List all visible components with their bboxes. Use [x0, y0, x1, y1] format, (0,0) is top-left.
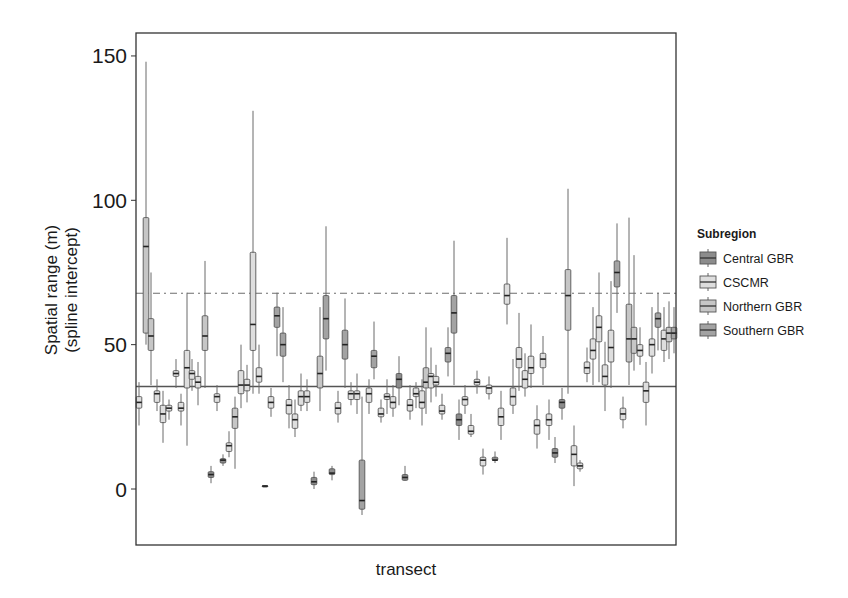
iqr-box	[286, 400, 292, 414]
legend-label: CSCMR	[723, 276, 769, 290]
iqr-box	[534, 420, 540, 434]
iqr-box	[189, 371, 195, 380]
iqr-box	[366, 388, 372, 402]
boxplot-chart: 050100150 transect Spatial range (m) (sp…	[0, 0, 848, 598]
iqr-box	[184, 350, 190, 388]
iqr-box	[649, 339, 655, 356]
iqr-box	[256, 368, 262, 382]
iqr-box	[468, 425, 474, 434]
iqr-box	[317, 356, 323, 388]
iqr-box	[148, 319, 154, 351]
iqr-box	[413, 388, 419, 397]
iqr-box	[202, 316, 208, 351]
iqr-box	[274, 307, 280, 327]
x-axis-title: transect	[376, 560, 437, 579]
iqr-box	[348, 391, 354, 400]
legend-item-southern: Southern GBR	[700, 321, 804, 339]
iqr-box	[516, 348, 522, 368]
legend-key-box-icon	[700, 321, 716, 339]
iqr-box	[143, 218, 149, 333]
iqr-box	[445, 348, 451, 362]
legend-item-central: Central GBR	[700, 249, 794, 267]
iqr-box	[608, 330, 614, 362]
y-tick-label: 0	[115, 478, 127, 501]
iqr-box	[292, 414, 298, 428]
iqr-box	[439, 405, 445, 414]
legend-title: Subregion	[697, 227, 756, 241]
plot-area	[136, 33, 677, 545]
iqr-box	[643, 382, 649, 402]
iqr-box	[559, 400, 565, 409]
iqr-box	[250, 252, 256, 350]
iqr-box	[238, 371, 244, 394]
iqr-box	[154, 391, 160, 403]
legend-key-box-icon	[700, 297, 716, 315]
iqr-box	[602, 365, 608, 385]
iqr-box	[298, 391, 304, 405]
iqr-box	[371, 350, 377, 367]
transect-box	[262, 485, 268, 487]
legend-item-northern: Northern GBR	[700, 297, 802, 315]
iqr-box	[590, 339, 596, 359]
iqr-box	[480, 457, 486, 466]
legend-label: Northern GBR	[723, 300, 802, 314]
iqr-box	[596, 316, 602, 342]
legend-label: Central GBR	[723, 252, 794, 266]
y-axis-title-line-2: (spline intercept)	[62, 227, 81, 353]
iqr-box	[226, 443, 232, 452]
y-tick-label: 50	[104, 333, 127, 356]
y-axis-title-line-1: Spatial range (m)	[42, 225, 61, 355]
iqr-box	[528, 356, 534, 373]
iqr-box	[232, 408, 238, 428]
legend-key-box-icon	[700, 249, 716, 267]
iqr-box	[433, 376, 439, 385]
iqr-box	[486, 385, 492, 394]
iqr-box	[419, 391, 425, 408]
y-tick-label: 150	[92, 44, 127, 67]
iqr-box	[571, 446, 577, 466]
iqr-box	[214, 394, 220, 403]
iqr-box	[631, 327, 637, 353]
legend-item-cscmr: CSCMR	[700, 273, 769, 291]
iqr-box	[178, 402, 184, 411]
iqr-box	[451, 296, 457, 334]
legend-label: Southern GBR	[723, 324, 804, 338]
plot-background	[136, 33, 676, 545]
iqr-box	[323, 296, 329, 339]
iqr-box	[359, 460, 365, 509]
iqr-box	[565, 270, 571, 331]
iqr-box	[655, 313, 661, 327]
iqr-box	[462, 397, 468, 406]
iqr-box	[614, 261, 620, 287]
iqr-box	[354, 391, 360, 400]
y-axis: 050100150	[92, 44, 136, 500]
iqr-box	[378, 408, 384, 417]
y-tick-label: 100	[92, 189, 127, 212]
iqr-box	[540, 353, 546, 367]
legend-key-box-icon	[700, 273, 716, 291]
legend: Subregion Central GBRCSCMRNorthern GBRSo…	[697, 227, 804, 339]
y-axis-title: Spatial range (m) (spline intercept)	[42, 225, 81, 355]
iqr-box	[504, 284, 510, 304]
iqr-box	[396, 374, 402, 388]
